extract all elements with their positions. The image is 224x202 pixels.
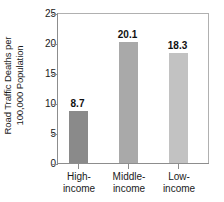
value-label-low-income: 18.3 (158, 41, 198, 51)
bar-middle-income (119, 42, 138, 163)
y-axis-title-line-1: Road Traffic Deaths per (3, 36, 15, 134)
value-label-high-income: 8.7 (58, 99, 98, 109)
x-axis-label-low-income: Low- income (147, 171, 211, 195)
x-tick-mark-middle-income (128, 164, 129, 169)
bar-chart: Road Traffic Deaths per 100,000 Populati… (0, 0, 224, 202)
bar-high-income (69, 111, 88, 163)
x-axis-label-low-income-line-2: income (147, 183, 211, 195)
x-axis-label-low-income-line-1: Low- (147, 171, 211, 183)
x-tick-mark-low-income (178, 164, 179, 169)
x-tick-mark-high-income (78, 164, 79, 169)
value-label-middle-income: 20.1 (108, 30, 148, 40)
bar-low-income (169, 53, 188, 163)
y-axis-title: Road Traffic Deaths per 100,000 Populati… (0, 0, 28, 170)
y-axis-title-line-2: 100,000 Population (14, 36, 26, 134)
